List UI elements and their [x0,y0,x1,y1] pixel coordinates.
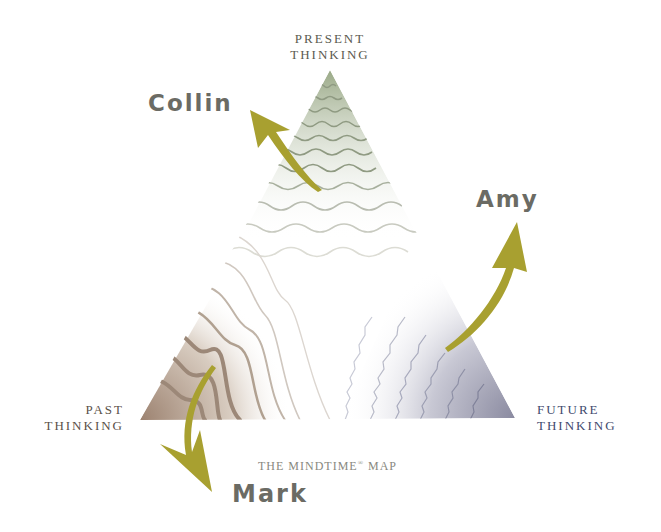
present-line1: PRESENT [280,31,380,47]
person-mark: Mark [232,480,308,508]
triangle-body [0,0,661,532]
future-thinking-label: FUTURE THINKING [537,402,637,434]
present-line2: THINKING [280,47,380,63]
title-the: THE [258,459,288,473]
past-line2: THINKING [30,418,124,434]
past-line1: PAST [30,402,124,418]
title-map: MAP [364,459,397,473]
map-title: THE MINDTIME® MAP [258,455,397,474]
present-thinking-label: PRESENT THINKING [280,31,380,63]
past-thinking-label: PAST THINKING [30,402,124,434]
mindtime-map-diagram [0,0,661,532]
future-line1: FUTURE [537,402,637,418]
future-line2: THINKING [537,418,637,434]
person-collin: Collin [148,90,233,116]
person-amy: Amy [476,186,539,212]
title-mindtime: MINDTIME [288,459,357,473]
